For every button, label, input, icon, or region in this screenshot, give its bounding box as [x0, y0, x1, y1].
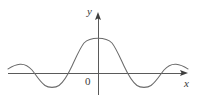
origin-label: 0	[85, 76, 91, 87]
y-axis-label: y	[87, 6, 92, 17]
graph-figure: y x 0	[0, 0, 198, 103]
plot-canvas	[0, 0, 198, 103]
x-axis-label: x	[184, 78, 189, 89]
